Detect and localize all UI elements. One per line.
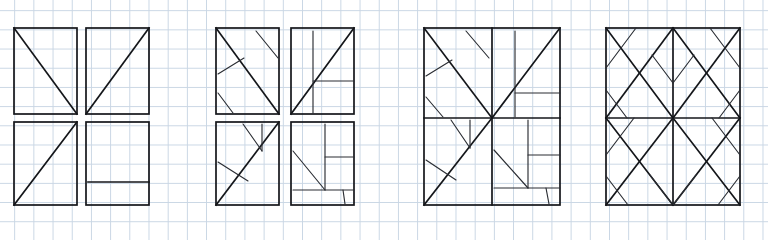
hatch-line-3 [650, 175, 673, 205]
diagonal-bl-tr [86, 28, 149, 114]
graph-paper-sheet [0, 0, 768, 240]
figure-2-quadrant-bottom-left [216, 122, 279, 205]
hatch-line-3 [673, 55, 694, 83]
diagonal-to-center [494, 150, 528, 188]
branch-lower-left [218, 93, 233, 113]
figure-2-quadrant-top-right [291, 28, 354, 114]
diagram-canvas [0, 0, 768, 240]
figure-4-quadrant-top-left [606, 28, 673, 118]
vertical-tick-bottom [546, 188, 549, 204]
figure-1-quadrant-top-right [86, 28, 149, 114]
diagonal-to-center [293, 151, 325, 190]
diagonal-center-tr [492, 28, 560, 118]
branch-upper-right [256, 31, 278, 58]
figure-1-quadrant-bottom-right [86, 122, 149, 205]
figure-4-quadrant-bottom-right [673, 118, 740, 205]
branch-upper-left [243, 124, 262, 151]
figure-2-quadrant-top-left [216, 28, 279, 114]
figure-1-quadrant-bottom-left [14, 122, 77, 205]
diagonal-tl-center [424, 28, 492, 118]
figure-3-quadrant-bottom-right [494, 120, 560, 204]
figure-1-quadrant-top-left [14, 28, 77, 114]
branch-lower-left [218, 162, 248, 181]
figure-3-quadrant-top-right [492, 28, 560, 118]
branch-upper-right [466, 31, 489, 58]
figure-4-quadrant-bottom-left [606, 118, 673, 205]
figure-4 [606, 28, 740, 205]
diagonal-tl-br [216, 28, 279, 114]
diagonal-tl-br [14, 28, 77, 114]
figure-2 [216, 28, 354, 205]
diagonal-bl-tr [291, 28, 354, 114]
figure-4-quadrant-top-right [673, 28, 740, 118]
diagonal-bl-tr [14, 122, 77, 205]
branch-upper-left [451, 120, 470, 148]
hatch-line-3 [652, 55, 673, 83]
figure-2-quadrant-bottom-right [291, 122, 354, 205]
branch-mid-left [218, 58, 244, 74]
branch-mid-left [426, 60, 452, 76]
vertical-tick-bottom [343, 190, 345, 204]
quadrant-outline [291, 122, 354, 205]
branch-lower-left [426, 97, 443, 117]
diagonal-bl-tr [216, 122, 279, 205]
figure-3 [424, 28, 560, 205]
figure-1 [14, 28, 149, 205]
hatch-line-3 [673, 175, 696, 205]
figure-3-quadrant-bottom-left [424, 118, 492, 205]
figure-3-quadrant-top-left [424, 28, 492, 118]
quadrant-outline [86, 122, 149, 205]
